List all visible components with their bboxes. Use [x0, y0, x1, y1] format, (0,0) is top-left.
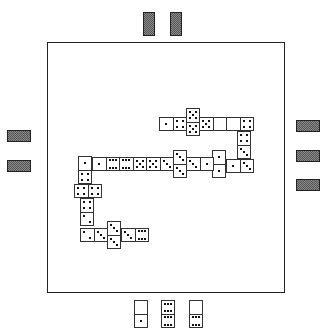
- domino-half-4: [81, 199, 93, 212]
- chain-domino: [74, 184, 102, 198]
- pip: [140, 320, 142, 322]
- pip: [192, 114, 194, 116]
- pip: [110, 238, 112, 240]
- pip: [169, 166, 171, 168]
- pip: [189, 111, 191, 113]
- domino-half-1: [160, 118, 173, 130]
- face-down-domino: [296, 120, 320, 132]
- pip: [246, 134, 248, 136]
- pip: [189, 125, 191, 127]
- pip: [122, 167, 124, 169]
- pip: [170, 324, 172, 326]
- domino-half-5: [147, 158, 160, 170]
- domino-half-3: [174, 151, 186, 164]
- pip: [128, 159, 130, 161]
- pip: [176, 153, 178, 155]
- pip: [113, 241, 115, 243]
- pip: [166, 163, 168, 165]
- chain-domino: [121, 228, 149, 242]
- domino-half-4: [173, 118, 187, 130]
- pip: [176, 120, 178, 122]
- pip: [240, 140, 242, 142]
- domino-half-3: [238, 145, 250, 159]
- pip: [218, 170, 220, 172]
- pip: [240, 148, 242, 150]
- face-down-domino: [170, 12, 182, 36]
- chain-domino: [173, 150, 187, 178]
- domino-half-4: [238, 132, 250, 145]
- domino-half-3: [122, 229, 135, 241]
- domino-half-1: [200, 158, 214, 170]
- pip: [195, 316, 197, 318]
- pip: [122, 159, 124, 161]
- face-down-domino: [296, 150, 320, 162]
- domino-half-6: [190, 314, 202, 328]
- hand-domino[interactable]: [134, 300, 148, 328]
- pip: [152, 163, 154, 165]
- pip: [170, 316, 172, 318]
- pip: [110, 224, 112, 226]
- chain-domino: [186, 157, 214, 171]
- domino-half-1: [93, 158, 106, 170]
- pip: [205, 123, 207, 125]
- chain-domino: [237, 131, 251, 159]
- pip: [198, 316, 200, 318]
- pip: [218, 156, 220, 158]
- pip: [195, 125, 197, 127]
- domino-half-4: [88, 185, 102, 197]
- domino-half-3: [108, 235, 120, 249]
- face-down-domino: [296, 179, 320, 191]
- chain-domino: [212, 150, 226, 178]
- pip: [195, 131, 197, 133]
- pip: [164, 324, 166, 326]
- domino-half-4: [240, 118, 254, 130]
- domino-half-1: [213, 151, 225, 164]
- domino-half-3: [94, 229, 108, 241]
- pip: [125, 167, 127, 169]
- pip: [249, 120, 251, 122]
- domino-half-2: [81, 212, 93, 226]
- pip: [81, 173, 83, 175]
- chain-domino: [199, 117, 227, 131]
- pip: [136, 166, 138, 168]
- pip: [192, 163, 194, 165]
- pip: [138, 238, 140, 240]
- chain-domino: [80, 228, 108, 242]
- domino-half-5: [187, 122, 199, 136]
- domino-half-3: [240, 160, 254, 172]
- pip: [243, 151, 245, 153]
- pip: [144, 230, 146, 232]
- pip: [83, 193, 85, 195]
- pip: [246, 165, 248, 167]
- pip: [87, 173, 89, 175]
- pip: [83, 201, 85, 203]
- pip: [83, 207, 85, 209]
- pip: [77, 193, 79, 195]
- chain-domino: [146, 157, 174, 171]
- pip: [128, 167, 130, 169]
- pip: [112, 159, 114, 161]
- pip: [83, 215, 85, 217]
- pip: [192, 316, 194, 318]
- hand-domino[interactable]: [189, 300, 203, 328]
- pip: [208, 120, 210, 122]
- pip: [243, 126, 245, 128]
- hand-domino[interactable]: [161, 300, 175, 328]
- pip: [192, 324, 194, 326]
- domino-half-1: [135, 314, 147, 328]
- pip: [149, 160, 151, 162]
- pip: [139, 163, 141, 165]
- pip: [206, 163, 208, 165]
- pip: [164, 316, 166, 318]
- pip: [164, 310, 166, 312]
- domino-half-1: [213, 164, 225, 178]
- domino-half-1: [79, 157, 91, 170]
- pip: [127, 234, 129, 236]
- pip: [189, 160, 191, 162]
- pip: [97, 187, 99, 189]
- pip: [81, 179, 83, 181]
- pip: [195, 111, 197, 113]
- pip: [113, 227, 115, 229]
- chain-domino: [78, 156, 92, 184]
- pip: [91, 187, 93, 189]
